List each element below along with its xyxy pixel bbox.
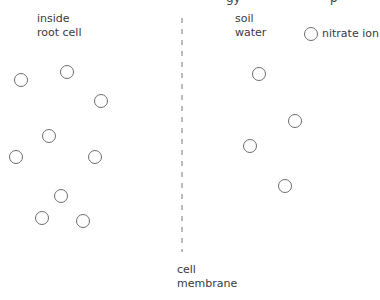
nitrate-ion-icon bbox=[10, 151, 23, 164]
ions-inside-root-cell bbox=[10, 66, 108, 228]
nitrate-ion-icon bbox=[36, 212, 49, 225]
nitrate-ion-icon bbox=[289, 115, 302, 128]
nitrate-ion-icon bbox=[95, 95, 108, 108]
nitrate-ion-icon bbox=[15, 74, 28, 87]
legend-nitrate-ion-icon bbox=[305, 28, 318, 41]
nitrate-ion-icon bbox=[43, 130, 56, 143]
diagram-canvas bbox=[0, 0, 380, 300]
nitrate-ion-icon bbox=[55, 190, 68, 203]
ions-soil-water bbox=[244, 68, 302, 193]
nitrate-ion-icon bbox=[244, 140, 257, 153]
nitrate-ion-icon bbox=[253, 68, 266, 81]
nitrate-ion-icon bbox=[89, 151, 102, 164]
nitrate-ion-icon bbox=[77, 215, 90, 228]
nitrate-ion-icon bbox=[61, 66, 74, 79]
nitrate-ion-icon bbox=[279, 180, 292, 193]
